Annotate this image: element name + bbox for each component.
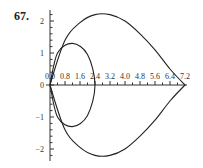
polar-curve-plot: 0.00.81.62.43.24.04.85.66.47.2−2−1012 — [0, 0, 203, 168]
x-tick-label: 7.2 — [180, 72, 190, 81]
x-tick-label: 5.6 — [150, 72, 160, 81]
y-tick-label: −2 — [35, 145, 44, 154]
x-tick-label: 3.2 — [105, 72, 115, 81]
axes — [46, 10, 187, 161]
y-tick-label: 2 — [40, 17, 44, 26]
x-tick-label: 4.8 — [135, 72, 145, 81]
y-tick-label: 1 — [40, 49, 44, 58]
x-tick-label: 1.6 — [75, 72, 85, 81]
x-tick-label: 4.0 — [120, 72, 130, 81]
x-tick-label: 0.8 — [60, 72, 70, 81]
y-tick-label: −1 — [35, 113, 44, 122]
y-tick-label: 0 — [40, 81, 44, 90]
